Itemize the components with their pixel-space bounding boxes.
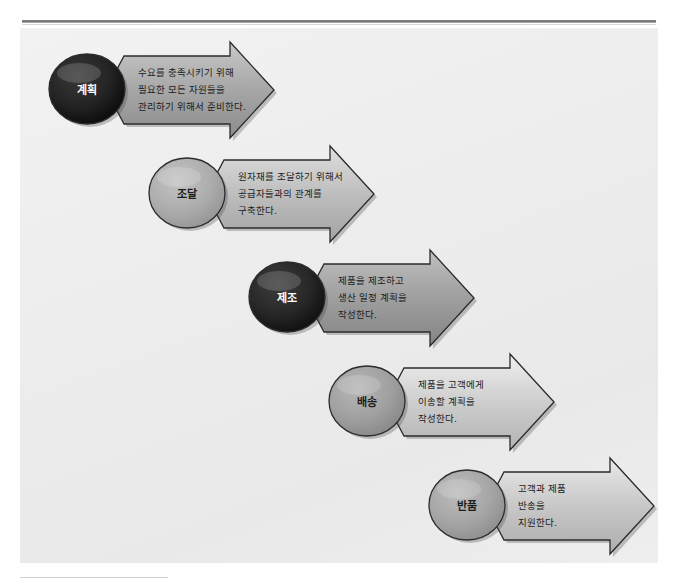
stage-description-line: 제품을 고객에게 — [418, 376, 484, 393]
stage-description-line: 작성한다. — [418, 410, 484, 427]
stage-ellipse-deliver: 배송 — [328, 365, 406, 437]
stage-arrow-return — [486, 458, 658, 558]
top-divider-rule — [22, 20, 656, 23]
stage-description-line: 필요한 모든 자원들을 — [138, 81, 246, 98]
stage-description-source: 원자재를 조달하기 위해서공급자들과의 관계를구축한다. — [238, 168, 343, 219]
stage-description-line: 구축한다. — [238, 202, 343, 219]
stage-description-line: 지원한다. — [518, 514, 566, 531]
process-diagram-panel: 계획수요를 충족시키기 위해필요한 모든 자원들을관리하기 위해서 준비한다.조… — [20, 28, 658, 563]
stage-ellipse-make: 제조 — [248, 261, 326, 333]
stage-ellipse-return: 반품 — [428, 469, 506, 541]
stage-ellipse-source: 조달 — [148, 157, 226, 229]
stage-ellipse-plan: 계획 — [48, 53, 126, 125]
stage-description-line: 생산 일정 계획을 — [338, 289, 407, 306]
process-stage-deliver: 배송제품을 고객에게이송할 계획을작성한다. — [328, 354, 554, 458]
stage-description-line: 원자재를 조달하기 위해서 — [238, 168, 343, 185]
bottom-divider-rule — [20, 577, 168, 578]
stage-description-line: 이송할 계획을 — [418, 393, 484, 410]
stage-description-make: 제품을 제조하고생산 일정 계획을작성한다. — [338, 272, 407, 323]
process-stage-return: 반품고객과 제품반송을지원한다. — [428, 458, 654, 562]
stage-description-line: 수요를 충족시키기 위해 — [138, 64, 246, 81]
process-stage-source: 조달원자재를 조달하기 위해서공급자들과의 관계를구축한다. — [148, 146, 374, 250]
stage-description-line: 관리하기 위해서 준비한다. — [138, 98, 246, 115]
stage-description-line: 작성한다. — [338, 306, 407, 323]
stage-description-deliver: 제품을 고객에게이송할 계획을작성한다. — [418, 376, 484, 427]
top-divider-rule-highlight — [22, 24, 656, 25]
stage-description-return: 고객과 제품반송을지원한다. — [518, 480, 566, 531]
process-stage-make: 제조제품을 제조하고생산 일정 계획을작성한다. — [248, 250, 474, 354]
process-stage-plan: 계획수요를 충족시키기 위해필요한 모든 자원들을관리하기 위해서 준비한다. — [48, 42, 274, 146]
stage-description-line: 제품을 제조하고 — [338, 272, 407, 289]
stage-description-plan: 수요를 충족시키기 위해필요한 모든 자원들을관리하기 위해서 준비한다. — [138, 64, 246, 115]
stage-description-line: 고객과 제품 — [518, 480, 566, 497]
stage-description-line: 공급자들과의 관계를 — [238, 185, 343, 202]
stage-description-line: 반송을 — [518, 497, 566, 514]
